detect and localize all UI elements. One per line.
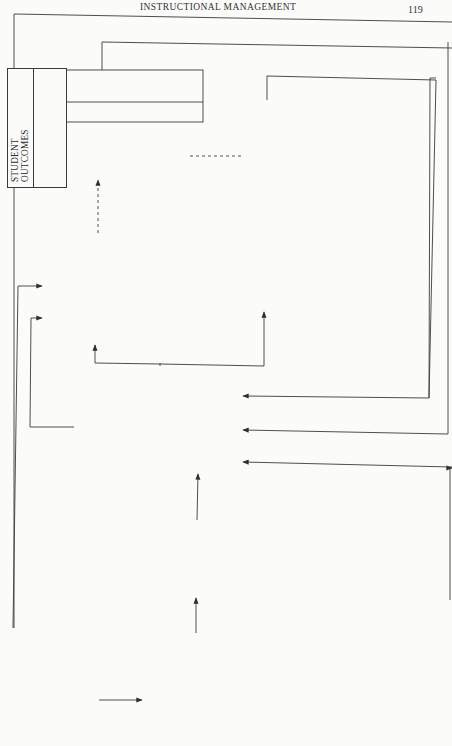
flow-diagram: STUDENT OUTCOMES	[0, 0, 452, 746]
line-community-to-climate	[13, 286, 42, 628]
student-outcomes-box: STUDENT OUTCOMES	[7, 68, 67, 188]
student-outcomes-title: STUDENT OUTCOMES	[8, 69, 34, 187]
line-plan-to-behaviour	[197, 474, 198, 520]
feedback-line-2	[243, 42, 448, 434]
line-behaviour-to-instr-org	[160, 312, 264, 366]
feedback-line-student-outcomes	[102, 42, 452, 70]
feedback-line-1	[243, 78, 436, 398]
line-behaviour-to-climate	[30, 318, 74, 427]
